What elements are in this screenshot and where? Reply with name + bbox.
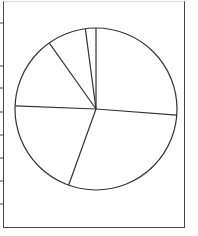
pie-chart xyxy=(0,0,198,236)
left-axis-ticks xyxy=(0,23,4,204)
pie-slice-divider xyxy=(69,109,96,185)
pie-slice-divider xyxy=(96,109,177,115)
pie-slice-divider xyxy=(15,106,96,109)
